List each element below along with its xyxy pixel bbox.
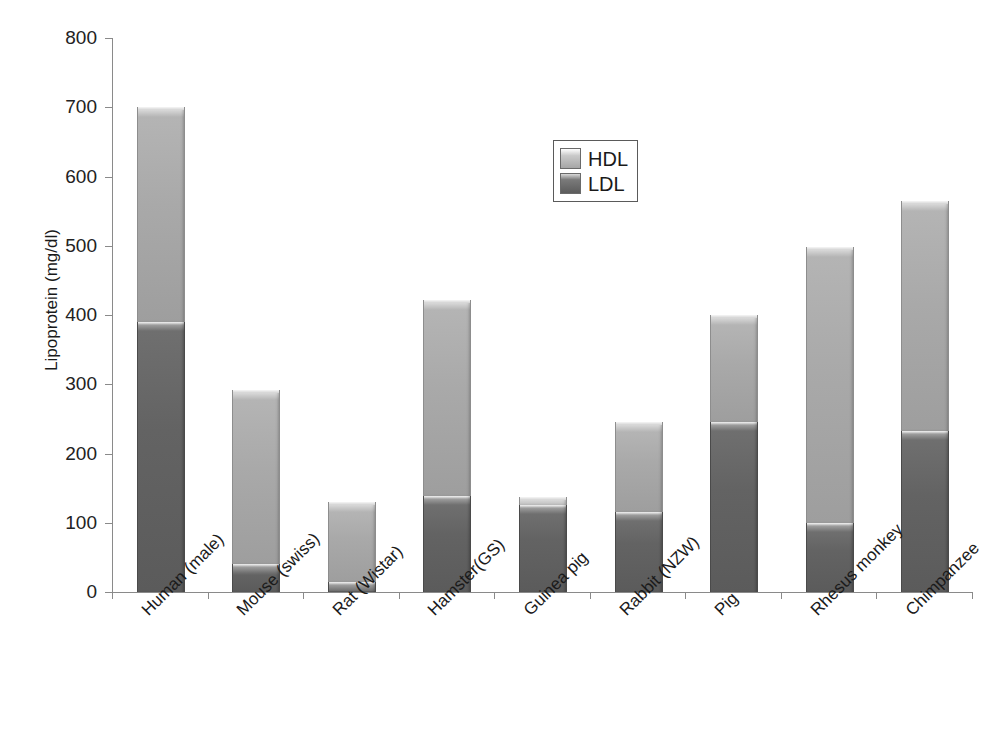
bar-mouse-swiss[interactable] [232, 390, 278, 592]
bar-segment-ldl [137, 322, 185, 592]
lipoprotein-bar-chart: Lipoprotein (mg/dl) 01002003004005006007… [0, 0, 996, 756]
y-tick-label: 800 [41, 27, 97, 49]
x-tick [781, 592, 782, 599]
y-tick-label: 600 [41, 166, 97, 188]
bar-segment-hdl [232, 390, 280, 565]
bar-pig[interactable] [710, 315, 756, 592]
x-tick [208, 592, 209, 599]
x-tick [876, 592, 877, 599]
y-tick: 200 [105, 454, 112, 455]
y-tick-label: 500 [41, 235, 97, 257]
y-tick-label: 200 [41, 443, 97, 465]
y-tick-label: 100 [41, 512, 97, 534]
y-tick-label: 700 [41, 96, 97, 118]
y-tick: 800 [105, 38, 112, 39]
bar-rhesus-monkey[interactable] [806, 247, 852, 592]
legend-item-ldl[interactable]: LDL [560, 171, 628, 196]
bar-human-male[interactable] [137, 107, 183, 592]
bar-segment-hdl [710, 315, 758, 422]
legend-swatch-ldl-icon [560, 173, 581, 194]
bar-segment-hdl [806, 247, 854, 523]
bar-segment-hdl [519, 497, 567, 505]
y-axis-line [112, 38, 113, 592]
y-tick: 0 [105, 592, 112, 593]
x-tick [590, 592, 591, 599]
chart-legend: HDL LDL [553, 140, 638, 202]
x-tick [303, 592, 304, 599]
y-tick: 600 [105, 177, 112, 178]
y-tick: 100 [105, 523, 112, 524]
legend-item-hdl[interactable]: HDL [560, 146, 628, 171]
x-tick [399, 592, 400, 599]
bar-chimpanzee[interactable] [901, 201, 947, 592]
plot-area: 0100200300400500600700800 Human (male)Mo… [112, 38, 972, 592]
bar-segment-hdl [423, 300, 471, 497]
x-tick [972, 592, 973, 599]
y-tick: 400 [105, 315, 112, 316]
y-tick: 300 [105, 384, 112, 385]
x-tick [112, 592, 113, 599]
legend-swatch-hdl-icon [560, 148, 581, 169]
bar-segment-hdl [137, 107, 185, 322]
y-tick-label: 400 [41, 304, 97, 326]
y-tick-label: 300 [41, 373, 97, 395]
bar-hamster-gs[interactable] [423, 300, 469, 592]
x-tick [685, 592, 686, 599]
y-tick: 700 [105, 107, 112, 108]
x-tick [494, 592, 495, 599]
y-tick-label: 0 [41, 581, 97, 603]
bar-segment-hdl [901, 201, 949, 432]
legend-label-ldl: LDL [588, 174, 625, 194]
y-tick: 500 [105, 246, 112, 247]
bar-segment-ldl [710, 422, 758, 592]
x-axis-label: Pig [711, 589, 743, 621]
legend-label-hdl: HDL [588, 149, 628, 169]
bar-segment-hdl [615, 422, 663, 512]
